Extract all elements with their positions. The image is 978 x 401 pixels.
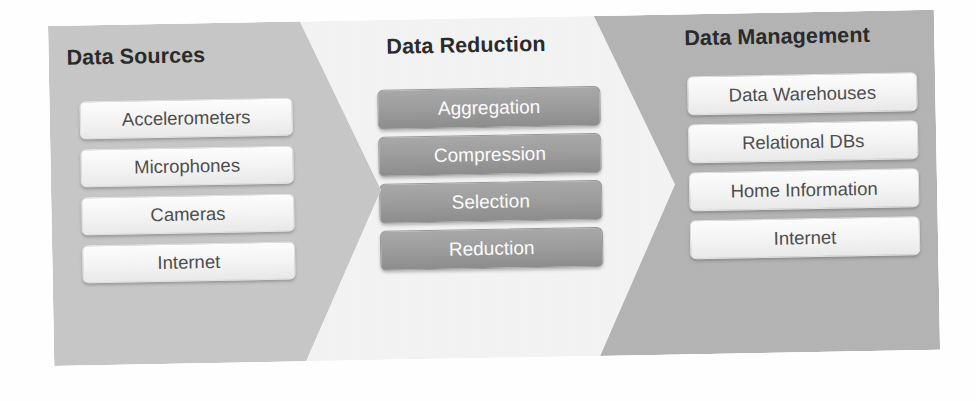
process-flow-diagram: Data Sources Accelerometers Microphones …: [48, 10, 940, 366]
list-item[interactable]: Aggregation: [377, 86, 601, 130]
diagram-canvas: Data Sources Accelerometers Microphones …: [0, 0, 978, 401]
stage-title-data-sources: Data Sources: [66, 43, 205, 71]
list-item[interactable]: Home Information: [689, 168, 920, 211]
list-item[interactable]: Cameras: [81, 194, 295, 236]
list-item[interactable]: Internet: [82, 242, 296, 284]
stage-title-data-management: Data Management: [684, 23, 870, 51]
stage-title-data-reduction: Data Reduction: [386, 32, 546, 60]
list-item[interactable]: Internet: [690, 216, 921, 259]
list-item[interactable]: Reduction: [380, 227, 604, 271]
item-list-data-sources: Accelerometers Microphones Cameras Inter…: [79, 98, 295, 294]
list-item[interactable]: Data Warehouses: [687, 72, 918, 115]
item-list-data-management: Data Warehouses Relational DBs Home Info…: [687, 72, 920, 268]
list-item[interactable]: Accelerometers: [79, 98, 293, 140]
list-item[interactable]: Selection: [379, 180, 603, 224]
list-item[interactable]: Relational DBs: [688, 120, 919, 163]
list-item[interactable]: Microphones: [80, 146, 294, 188]
item-list-data-reduction: Aggregation Compression Selection Reduct…: [377, 86, 603, 278]
list-item[interactable]: Compression: [378, 133, 602, 177]
